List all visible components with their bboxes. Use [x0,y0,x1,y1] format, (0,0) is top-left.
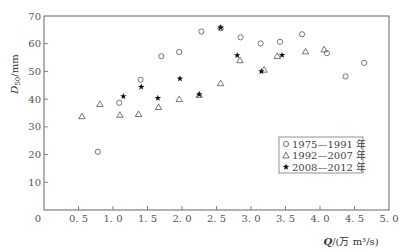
plot-frame [44,16,389,210]
legend-item: 1992—2007 年 [283,149,366,161]
series-star [120,24,285,101]
triangle-marker [97,101,103,107]
y-tick-label: 70 [28,11,41,22]
x-tick-label: 1. 0 [103,213,122,224]
x-axis-ticks: 00. 51. 01. 52. 02. 53. 03. 54. 04. 55. … [35,206,399,224]
triangle-marker [237,57,243,63]
circle-marker [277,39,282,44]
circle-marker [362,60,367,65]
circle-marker [177,49,182,54]
x-tick-label: 3. 0 [241,213,260,224]
legend-label: 1992—2007 年 [292,149,366,161]
x-tick-label: 0. 5 [69,213,88,224]
triangle-marker [135,111,141,117]
x-tick-label: 2. 5 [207,213,226,224]
circle-marker [299,32,304,37]
scatter-chart: 00. 51. 01. 52. 02. 53. 03. 54. 04. 55. … [0,0,409,252]
triangle-marker [274,53,280,59]
triangle-marker [176,96,182,102]
triangle-marker [217,80,223,86]
circle-marker [95,149,100,154]
x-tick-label: 0 [35,213,41,224]
circle-marker [138,77,143,82]
x-tick-label: 1. 5 [138,213,157,224]
x-tick-label: 4. 5 [345,213,364,224]
y-tick-label: 60 [28,38,41,49]
series-circle [95,26,367,155]
y-axis-ticks: 10203040506070 [28,11,48,188]
legend: 1975—1991 年1992—2007 年2008—2012 年 [279,137,366,173]
star-marker [155,95,161,101]
x-axis-title: Q/(万 m³/s) [323,236,378,247]
circle-marker [343,74,348,79]
x-tick-label: 5. 0 [379,213,398,224]
star-marker [234,52,240,58]
legend-item: 1975—1991 年 [283,138,366,150]
circle-marker [258,41,263,46]
y-axis-title: D50/mm [9,54,22,95]
circle-marker [199,29,204,34]
circle-marker [117,100,122,105]
circle-marker [238,35,243,40]
triangle-marker [302,48,308,54]
circle-marker [159,54,164,59]
y-tick-label: 20 [28,149,41,160]
series-triangle [79,46,328,118]
y-tick-label: 40 [28,94,41,105]
x-tick-label: 2. 0 [172,213,191,224]
triangle-marker [155,104,161,110]
triangle-marker [321,46,327,52]
triangle-marker [117,112,123,118]
star-marker [138,84,144,90]
star-marker [258,68,264,74]
y-axis-title-subscript: 50 [14,77,22,86]
y-tick-label: 30 [28,121,41,132]
x-tick-label: 3. 5 [276,213,295,224]
y-tick-label: 10 [28,177,41,188]
y-tick-label: 50 [28,66,41,77]
star-marker [177,75,183,81]
data-points [79,24,367,154]
triangle-marker [79,113,85,119]
legend-label: 1975—1991 年 [292,138,366,150]
legend-item: 2008—2012 年 [283,161,366,173]
star-marker [120,93,126,99]
legend-label: 2008—2012 年 [292,161,366,173]
x-tick-label: 4. 0 [310,213,329,224]
